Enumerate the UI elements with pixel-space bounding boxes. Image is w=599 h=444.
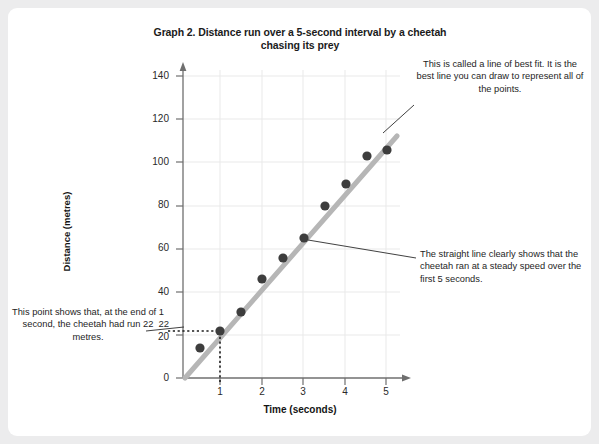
line-of-best-fit xyxy=(185,136,397,378)
x-axis-arrow xyxy=(402,375,411,382)
y-axis-arrow xyxy=(180,62,187,71)
chart-stage: Graph 2. Distance run over a 5-second in… xyxy=(0,0,599,444)
data-point xyxy=(215,326,224,335)
data-point xyxy=(382,145,391,154)
data-point xyxy=(195,343,204,352)
annotation-point-22: This point shows that, at the end of 1 s… xyxy=(8,306,168,343)
annotation-steady-speed: The straight line clearly shows that the… xyxy=(420,248,592,285)
data-point xyxy=(362,151,371,160)
data-point xyxy=(320,201,329,210)
annotation-best-fit: This is called a line of best fit. It is… xyxy=(414,58,586,95)
highlight-guides xyxy=(168,331,220,382)
data-point xyxy=(236,307,245,316)
annotation-leader-lines xyxy=(146,105,416,331)
tick-marks xyxy=(176,76,386,385)
data-point xyxy=(278,253,287,262)
data-point xyxy=(257,274,266,283)
data-point xyxy=(299,233,308,242)
data-point xyxy=(341,179,350,188)
